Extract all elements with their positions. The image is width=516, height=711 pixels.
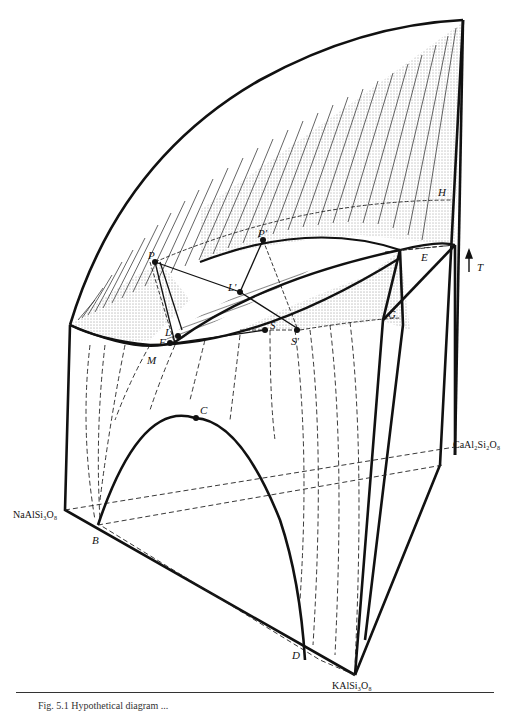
label-e: E bbox=[421, 252, 428, 263]
figure-caption: Fig. 5.1 Hypothetical diagram ... bbox=[38, 700, 168, 711]
temperature-arrow-icon bbox=[466, 250, 472, 272]
label-p-prime: P' bbox=[258, 228, 267, 239]
component-caal2si2o8: CaAl₂Si₂O₈ bbox=[453, 440, 500, 450]
hatched-three-phase-region bbox=[165, 270, 310, 342]
component-kalsi3o8: KAlSi₃O₈ bbox=[332, 681, 372, 691]
label-d: D bbox=[292, 650, 300, 661]
label-g: G bbox=[388, 309, 396, 320]
label-s-prime: S' bbox=[291, 336, 299, 347]
component-naalsi3o8: NaAlSi₃O₈ bbox=[13, 510, 57, 520]
label-b: B bbox=[92, 535, 99, 546]
caption-divider bbox=[16, 692, 494, 693]
label-l-prime: L' bbox=[228, 282, 236, 293]
solvus-curve-bcd bbox=[98, 416, 305, 660]
label-m: M bbox=[147, 355, 156, 366]
label-f: F bbox=[159, 337, 166, 348]
label-c: C bbox=[200, 405, 207, 416]
axis-label-t: T bbox=[477, 262, 483, 273]
label-s: S bbox=[270, 320, 276, 331]
label-p: P bbox=[148, 250, 155, 261]
label-h: H bbox=[438, 187, 446, 198]
